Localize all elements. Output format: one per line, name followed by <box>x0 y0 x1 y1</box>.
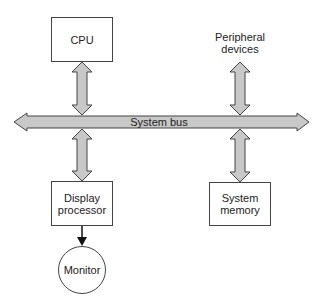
bus-display-arrow <box>72 129 92 181</box>
display-monitor-arrowhead <box>77 237 87 246</box>
peripheral-line2: devices <box>205 43 275 55</box>
peripheral-bus-arrow <box>230 62 250 115</box>
cpu-box: CPU <box>51 17 113 62</box>
system-memory-box: System memory <box>209 182 271 226</box>
display-processor-box: Display processor <box>51 181 113 226</box>
system-bus-label: System bus <box>119 116 199 128</box>
monitor-label: Monitor <box>64 264 101 276</box>
peripheral-line1: Peripheral <box>205 31 275 43</box>
peripheral-devices-label: Peripheral devices <box>205 31 275 55</box>
display-line2: processor <box>58 204 106 216</box>
bus-memory-arrow <box>230 129 250 182</box>
cpu-bus-arrow <box>72 62 92 115</box>
display-line1: Display <box>58 192 106 204</box>
memory-line1: System <box>220 192 260 204</box>
cpu-label: CPU <box>70 34 93 46</box>
memory-line2: memory <box>220 204 260 216</box>
monitor-circle: Monitor <box>58 246 106 294</box>
